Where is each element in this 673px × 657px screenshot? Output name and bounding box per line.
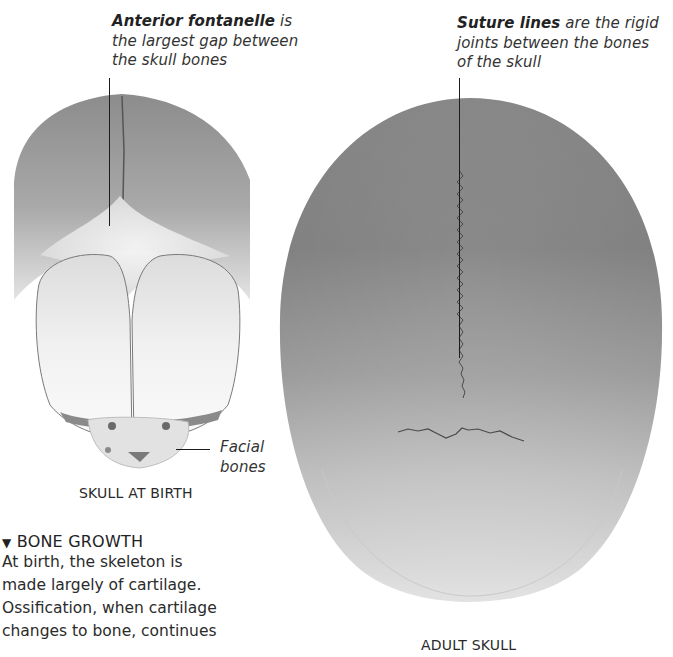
bone-growth-body: At birth, the skeleton is made largely o… [2,551,282,643]
suture-lines-term: Suture lines [457,14,560,32]
bone-growth-section: ▼ BONE GROWTH At birth, the skeleton is … [2,532,282,643]
skull-at-birth-image [14,94,250,468]
section-heading-text: BONE GROWTH [17,532,143,551]
facial-bones-leader-line [176,449,210,450]
suture-lines-leader-line [459,78,460,358]
bone-growth-heading: ▼ BONE GROWTH [2,532,282,551]
adult-skull-label: ADULT SKULL [421,637,516,653]
suture-lines-caption: Suture lines are the rigid joints betwee… [457,14,673,73]
anterior-fontanelle-leader-line [109,78,110,226]
skull-at-birth-label: SKULL AT BIRTH [79,485,193,501]
anterior-fontanelle-caption: Anterior fontanelle is the largest gap b… [112,12,312,71]
adult-skull-image [280,98,662,602]
facial-bones-caption: Facial bones [220,438,280,477]
anterior-fontanelle-term: Anterior fontanelle [112,12,275,30]
triangle-down-icon: ▼ [2,536,11,550]
